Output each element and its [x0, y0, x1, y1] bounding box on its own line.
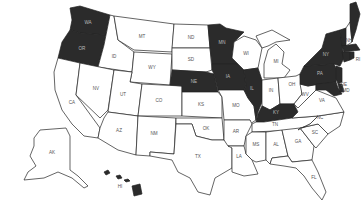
- label-sc: SC: [312, 130, 319, 135]
- label-wi: WI: [243, 51, 249, 56]
- label-nh: NH: [346, 38, 353, 43]
- label-ne: NE: [191, 79, 197, 84]
- label-pa: PA: [317, 71, 324, 76]
- label-id: ID: [112, 54, 117, 59]
- state-az[interactable]: [98, 112, 138, 155]
- label-or: OR: [79, 46, 87, 51]
- label-ak: AK: [49, 150, 56, 155]
- state-nm[interactable]: [136, 116, 176, 156]
- label-nv: NV: [93, 86, 100, 91]
- label-oh: OH: [289, 82, 296, 87]
- label-wy: WY: [148, 65, 155, 70]
- label-nc: NC: [317, 115, 324, 120]
- state-ny[interactable]: [304, 30, 344, 66]
- state-hi[interactable]: [104, 170, 142, 196]
- label-ut: UT: [120, 92, 126, 97]
- label-nm: NM: [150, 131, 157, 136]
- label-ms: MS: [253, 142, 260, 147]
- state-in[interactable]: [262, 78, 280, 110]
- label-ny: NY: [323, 52, 329, 57]
- label-mt: MT: [139, 34, 146, 39]
- label-al: AL: [273, 142, 279, 147]
- label-sd: SD: [188, 57, 195, 62]
- label-mi: MI: [273, 59, 278, 64]
- label-tx: TX: [195, 154, 201, 159]
- state-me[interactable]: [350, 2, 360, 42]
- state-ri[interactable]: [350, 52, 354, 60]
- label-la: LA: [236, 154, 243, 159]
- label-tn: TN: [272, 122, 278, 127]
- label-de: DE: [341, 82, 347, 87]
- label-ri: RI: [356, 57, 361, 62]
- label-in: IN: [269, 88, 274, 93]
- label-wa: WA: [84, 20, 92, 25]
- state-fl[interactable]: [270, 156, 326, 200]
- label-fl: FL: [311, 175, 317, 180]
- us-states-map: WA OR CA ID NV MT WY UT CO AZ NM ND SD N…: [0, 0, 361, 208]
- label-az: AZ: [116, 128, 122, 133]
- label-mn: MN: [218, 40, 225, 45]
- label-co: CO: [156, 98, 163, 103]
- label-ok: OK: [203, 126, 211, 131]
- label-va: VA: [319, 98, 326, 103]
- label-nd: ND: [188, 35, 195, 40]
- label-ca: CA: [69, 100, 76, 105]
- state-ak[interactable]: [24, 128, 88, 188]
- label-ga: GA: [295, 139, 303, 144]
- state-ct[interactable]: [342, 52, 350, 62]
- label-mo: MO: [232, 103, 240, 108]
- label-il: IL: [250, 86, 254, 91]
- label-wv: WV: [301, 92, 309, 97]
- label-ky: KY: [273, 110, 279, 115]
- label-ar: AR: [233, 129, 240, 134]
- label-ks: KS: [198, 102, 204, 107]
- label-md: MD: [342, 88, 350, 93]
- label-hi: HI: [118, 184, 123, 189]
